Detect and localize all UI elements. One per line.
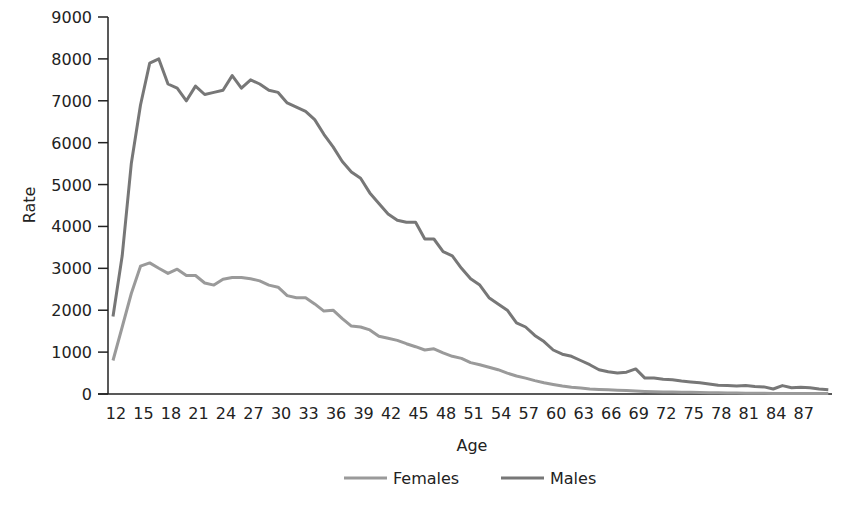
x-tick-label: 15: [133, 404, 153, 423]
x-tick-label: 12: [106, 404, 126, 423]
x-tick-label: 69: [629, 404, 649, 423]
x-tick-label: 18: [161, 404, 181, 423]
y-tick-label: 4000: [51, 217, 92, 236]
legend-label-females: Females: [393, 469, 459, 488]
series-lines: [113, 59, 828, 394]
y-tick-label: 8000: [51, 50, 92, 69]
y-tick-label: 6000: [51, 134, 92, 153]
x-tick-label: 30: [271, 404, 291, 423]
x-axis-title: Age: [457, 436, 488, 455]
legend-label-males: Males: [550, 469, 596, 488]
x-tick-label: 81: [739, 404, 759, 423]
x-tick-label: 72: [656, 404, 676, 423]
x-tick-label: 24: [216, 404, 236, 423]
x-tick-label: 27: [243, 404, 263, 423]
x-axis-ticks: 1215182124273033363942454851545760636669…: [106, 404, 814, 423]
y-tick-label: 9000: [51, 8, 92, 27]
rate-by-age-line-chart: 0100020003000400050006000700080009000 12…: [0, 0, 851, 511]
x-tick-label: 63: [573, 404, 593, 423]
x-tick-label: 75: [684, 404, 704, 423]
x-tick-label: 87: [794, 404, 814, 423]
x-tick-label: 42: [381, 404, 401, 423]
y-tick-label: 0: [82, 385, 92, 404]
x-tick-label: 21: [188, 404, 208, 423]
y-tick-label: 1000: [51, 343, 92, 362]
y-axis-ticks: 0100020003000400050006000700080009000: [51, 8, 108, 404]
x-tick-label: 54: [491, 404, 511, 423]
x-tick-label: 51: [463, 404, 483, 423]
series-line-females: [113, 263, 828, 394]
y-tick-label: 3000: [51, 259, 92, 278]
y-tick-label: 7000: [51, 92, 92, 111]
y-tick-label: 2000: [51, 301, 92, 320]
x-tick-label: 45: [408, 404, 428, 423]
x-tick-label: 39: [353, 404, 373, 423]
y-axis-title: Rate: [20, 187, 39, 224]
x-tick-label: 60: [546, 404, 566, 423]
legend: Females Males: [344, 469, 596, 488]
x-tick-label: 36: [326, 404, 346, 423]
x-tick-label: 84: [766, 404, 786, 423]
series-line-males: [113, 59, 828, 390]
x-tick-label: 57: [518, 404, 538, 423]
y-tick-label: 5000: [51, 176, 92, 195]
x-tick-label: 48: [436, 404, 456, 423]
x-tick-label: 78: [711, 404, 731, 423]
x-tick-label: 33: [298, 404, 318, 423]
x-tick-label: 66: [601, 404, 621, 423]
